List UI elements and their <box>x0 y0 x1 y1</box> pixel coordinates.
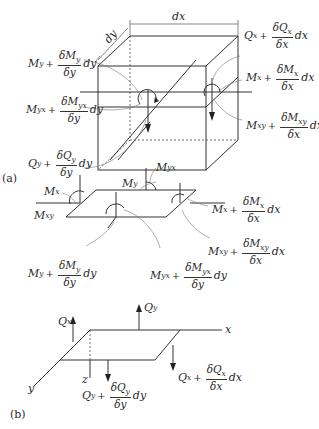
plate-outline-moments <box>66 190 196 217</box>
label-myx: Myx <box>156 162 176 173</box>
label-mx-plus-b: Mx + δMxδx dx <box>212 196 280 223</box>
label-qx-plus-b: Qx + δQxδx dx <box>178 364 242 391</box>
panel-a-tag: (a) <box>2 172 17 185</box>
label-myx-plus-b: Myx + δMyxδy dy <box>150 262 227 289</box>
cube-panel-a <box>80 20 252 170</box>
y-axis-label: y <box>28 382 34 395</box>
plate-outline-shears <box>60 330 180 360</box>
label-mxy-plus: Mxy + δMxyδx dx <box>246 112 319 139</box>
label-qy-plus-b: Qy + δQyδy dy <box>82 382 146 409</box>
label-mx: Mx <box>44 186 60 197</box>
label-mxy: Mxy <box>34 210 54 221</box>
cube-top-face <box>98 36 238 66</box>
label-qx: Qx <box>58 316 71 327</box>
label-qy-plus: Qy + δQyδy dy <box>28 150 92 177</box>
panel-b-tag: (b) <box>10 408 26 421</box>
label-qy: Qy <box>144 302 157 313</box>
label-mx-plus: Mx + δMxδx dx <box>246 64 314 91</box>
label-qx-plus: Qx + δQxδx dx <box>244 22 308 49</box>
label-my: My <box>122 178 138 189</box>
x-axis-label: x <box>225 323 231 336</box>
y-axis <box>34 360 60 386</box>
label-mxy-plus-b: Mxy + δMxyδx dx <box>208 238 285 265</box>
dx-dimension-label: dx <box>172 10 185 23</box>
label-myx-plus: Myx + δMyxδy dy <box>26 96 103 123</box>
label-my-plus: My + δMyδy dy <box>28 50 97 77</box>
label-my-plus-b: My + δMyδy dy <box>28 260 97 287</box>
